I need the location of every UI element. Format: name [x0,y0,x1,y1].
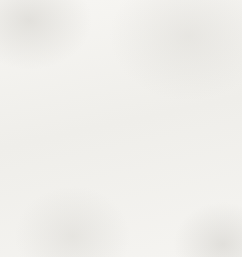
coordinate-graph-canvas [0,0,242,257]
coordinate-graph-figure [0,0,242,257]
